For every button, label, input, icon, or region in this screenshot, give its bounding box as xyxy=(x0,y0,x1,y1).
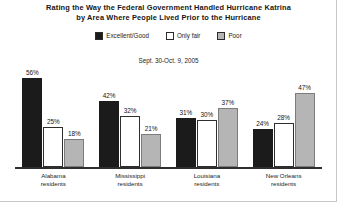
bar-excellent[interactable] xyxy=(253,129,273,167)
gray-swatch-icon xyxy=(217,32,225,40)
bar-value-label: 37% xyxy=(221,99,234,107)
category-label-line: Alabama xyxy=(15,172,92,180)
chart-title-line-1: Rating the Way the Federal Government Ha… xyxy=(0,3,337,13)
chart-container: Rating the Way the Federal Government Ha… xyxy=(0,0,337,202)
bar-value-label: 24% xyxy=(256,120,269,128)
bar-group: 56%25%18% xyxy=(22,72,84,167)
legend-item-label: Poor xyxy=(228,32,241,40)
category-label-line: residents xyxy=(169,180,246,188)
bar-excellent[interactable] xyxy=(22,78,42,167)
bar-group-bars: 56%25%18% xyxy=(22,72,84,167)
white-swatch-icon xyxy=(166,32,174,40)
legend-item-2[interactable]: Poor xyxy=(217,32,241,40)
category-label: New Orleansresidents xyxy=(245,172,322,187)
category-label-line: residents xyxy=(245,180,322,188)
plot-area: 56%25%18%42%32%21%31%30%37%24%28%47% xyxy=(15,72,322,167)
chart-legend: Excellent/GoodOnly fairPoor xyxy=(0,32,337,40)
category-label: Alabamaresidents xyxy=(15,172,92,187)
legend-item-label: Excellent/Good xyxy=(106,32,149,40)
category-label-line: residents xyxy=(92,180,169,188)
legend-item-0[interactable]: Excellent/Good xyxy=(95,32,149,40)
bar-group-bars: 31%30%37% xyxy=(176,72,238,167)
bar-fair[interactable] xyxy=(120,116,140,167)
bar-item[interactable]: 47% xyxy=(295,72,315,167)
bar-value-label: 18% xyxy=(68,130,81,138)
bar-item[interactable]: 25% xyxy=(43,72,63,167)
bar-value-label: 32% xyxy=(124,107,137,115)
x-axis-line xyxy=(15,167,322,169)
bar-poor[interactable] xyxy=(141,134,161,167)
bar-item[interactable]: 18% xyxy=(64,72,84,167)
bar-value-label: 56% xyxy=(26,69,39,77)
category-label-line: residents xyxy=(15,180,92,188)
bar-poor[interactable] xyxy=(64,139,84,168)
category-label: Louisianaresidents xyxy=(169,172,246,187)
bar-excellent[interactable] xyxy=(176,118,196,167)
bar-value-label: 47% xyxy=(298,84,311,92)
bar-value-label: 30% xyxy=(200,111,213,119)
bar-value-label: 25% xyxy=(47,118,60,126)
bar-item[interactable]: 24% xyxy=(253,72,273,167)
bar-item[interactable]: 31% xyxy=(176,72,196,167)
chart-title: Rating the Way the Federal Government Ha… xyxy=(0,3,337,23)
category-label-line: Mississippi xyxy=(92,172,169,180)
bar-item[interactable]: 21% xyxy=(141,72,161,167)
bar-item[interactable]: 56% xyxy=(22,72,42,167)
bar-group: 24%28%47% xyxy=(253,72,315,167)
legend-item-1[interactable]: Only fair xyxy=(166,32,200,40)
bar-value-label: 28% xyxy=(277,114,290,122)
bar-excellent[interactable] xyxy=(99,101,119,168)
bar-fair[interactable] xyxy=(197,120,217,168)
bar-value-label: 21% xyxy=(145,125,158,133)
bar-item[interactable]: 32% xyxy=(120,72,140,167)
bar-item[interactable]: 30% xyxy=(197,72,217,167)
bar-poor[interactable] xyxy=(295,93,315,167)
category-label-line: Louisiana xyxy=(169,172,246,180)
bar-group: 42%32%21% xyxy=(99,72,161,167)
bar-group-bars: 42%32%21% xyxy=(99,72,161,167)
category-label-line: New Orleans xyxy=(245,172,322,180)
black-swatch-icon xyxy=(95,32,103,40)
bar-fair[interactable] xyxy=(274,123,294,167)
bar-item[interactable]: 37% xyxy=(218,72,238,167)
bar-item[interactable]: 42% xyxy=(99,72,119,167)
bar-group-bars: 24%28%47% xyxy=(253,72,315,167)
category-label: Mississippiresidents xyxy=(92,172,169,187)
chart-subtitle: Sept. 30-Oct. 9, 2005 xyxy=(0,57,337,64)
bar-item[interactable]: 28% xyxy=(274,72,294,167)
bar-value-label: 31% xyxy=(179,109,192,117)
chart-title-line-2: by Area Where People Lived Prior to the … xyxy=(0,13,337,23)
bar-group: 31%30%37% xyxy=(176,72,238,167)
bar-poor[interactable] xyxy=(218,108,238,167)
bar-fair[interactable] xyxy=(43,127,63,167)
legend-item-label: Only fair xyxy=(177,32,200,40)
bar-value-label: 42% xyxy=(103,92,116,100)
